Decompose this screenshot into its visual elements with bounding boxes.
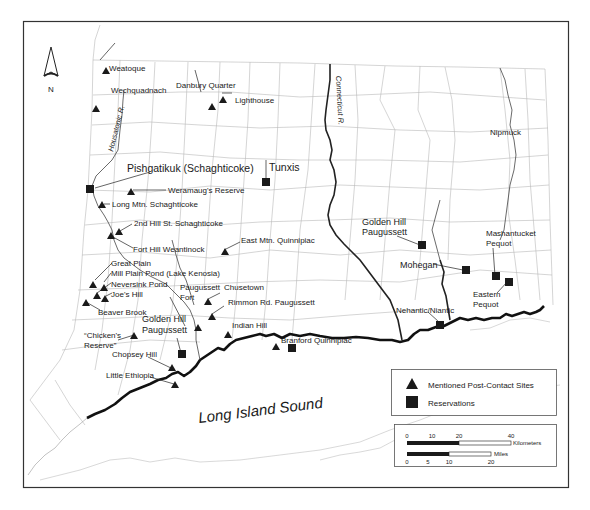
svg-text:20: 20 [488, 459, 495, 465]
north-label: N [48, 85, 54, 94]
scale-bar: 0 10 20 40 Kilometers Miles 0 5 10 20 [395, 425, 557, 467]
connecticut-map: N Housatonic R. Connecticut R. Long Isla… [0, 0, 590, 510]
label-chusetown: Chusetown [224, 283, 264, 292]
label-paugussett-fort-1: Paugussett [180, 283, 221, 292]
label-weramaugs-reserve: Weramaug's Reserve [168, 186, 245, 195]
square-icon [462, 266, 470, 274]
svg-text:20: 20 [456, 433, 463, 439]
label-indian-hill: Indian Hill [232, 321, 267, 330]
label-little-ethiopia: Little Ethiopia [106, 371, 155, 380]
label-great-plain: Great Plain [111, 259, 151, 268]
square-icon [505, 278, 513, 286]
label-pishgatikuk: Pishgatikuk (Schaghticoke) [127, 162, 254, 174]
label-danbury-quarter: Danbury Quarter [176, 81, 236, 90]
label-paugussett-fort-2: Fort [180, 293, 195, 302]
square-icon [418, 241, 426, 249]
label-chickens-reserve-2: Reserve” [84, 341, 117, 350]
label-weatoque: Weatoque [109, 64, 146, 73]
label-mill-plain-pond: Mill Plain Pond (Lake Kenosia) [111, 269, 220, 278]
legend-sites-label: Mentioned Post-Contact Sites [428, 381, 534, 390]
label-joes-hill: Joe's Hill [111, 290, 143, 299]
label-fort-hill-weantinock: Fort Hill Weantinock [133, 245, 205, 254]
label-mohegan: Mohegan [400, 260, 438, 270]
label-wechquadnach: Wechquadnach [111, 86, 166, 95]
label-east-mtn-quinnipiac: East Mtn. Quinnipiac [241, 236, 315, 245]
label-chickens-reserve-1: “Chicken's [84, 331, 121, 340]
label-golden-hill-paugussett-west-1: Golden Hill [142, 314, 186, 324]
label-lighthouse: Lighthouse [235, 96, 275, 105]
legend-square-icon [406, 396, 418, 408]
map-frame [24, 22, 569, 488]
svg-text:40: 40 [508, 433, 515, 439]
label-nipmuck: Nipmuck [490, 128, 522, 137]
square-icon [86, 185, 94, 193]
label-branford-quinnipiac: Branford Quinnipiac [281, 336, 352, 345]
label-mashantucket-pequot-2: Pequot [486, 239, 512, 248]
square-icon [262, 178, 270, 186]
square-icon [436, 321, 444, 329]
label-neversink-pond: Neversink Pond [111, 280, 167, 289]
label-long-mtn-schaghticoke: Long Mtn. Schaghticoke [112, 200, 198, 209]
label-eastern-pequot-1: Eastern [473, 290, 501, 299]
label-golden-hill-paugussett-east-1: Golden Hill [362, 217, 406, 227]
svg-text:Kilometers: Kilometers [513, 440, 541, 446]
square-icon [288, 344, 296, 352]
label-beaver-brook: Beaver Brook [98, 308, 147, 317]
label-chopsey-hill: Chopsey Hill [112, 350, 157, 359]
map-legend: Mentioned Post-Contact Sites Reservation… [392, 370, 557, 416]
svg-text:10: 10 [446, 459, 453, 465]
label-golden-hill-paugussett-east-2: Paugussett [362, 227, 408, 237]
svg-text:Miles: Miles [494, 451, 508, 457]
square-icon [178, 350, 186, 358]
square-icon [492, 272, 500, 280]
svg-text:10: 10 [429, 433, 436, 439]
label-tunxis: Tunxis [269, 161, 300, 173]
label-rimmon-rd-paugussett: Rimmon Rd. Paugussett [228, 298, 315, 307]
legend-reservations-label: Reservations [428, 399, 475, 408]
label-mashantucket-pequot-1: Mashantucket [486, 229, 537, 238]
label-golden-hill-paugussett-west-2: Paugussett [142, 325, 188, 335]
label-2nd-hill-schaghticoke: 2nd Hill St. Schaghticoke [134, 219, 223, 228]
label-eastern-pequot-2: Pequot [473, 300, 499, 309]
label-nehantic-niantic: Nehantic/Niantic [396, 306, 454, 315]
